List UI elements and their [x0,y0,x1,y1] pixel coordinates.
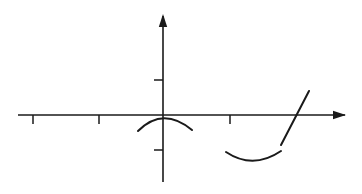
concave-up-arc-below-axis [226,151,281,161]
diagonal-line-segment [281,91,309,145]
y-axis-arrowhead [159,14,167,27]
x-axis-arrowhead [333,111,346,119]
figure-canvas [0,0,362,194]
concave-down-arc-at-origin [138,118,192,131]
axes-sketch-svg [0,0,362,194]
